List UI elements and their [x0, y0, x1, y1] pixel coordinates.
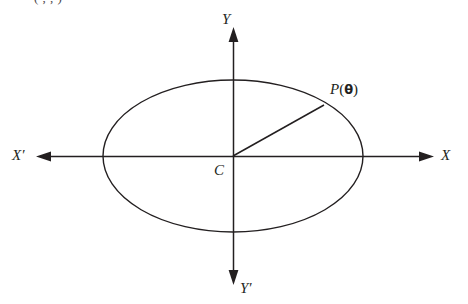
ellipse-diagram-figure: ( , , ) X) --> X′ X Y Y′ C: [0, 0, 468, 304]
axis-label-y-negative: Y′: [240, 281, 252, 296]
diagram-canvas: X) -->: [0, 0, 468, 304]
axis-label-y-positive: Y: [222, 12, 230, 27]
x-axis: [36, 152, 434, 162]
x-axis-negative-arrowhead: [36, 152, 51, 162]
axis-label-x-negative: X′: [12, 148, 24, 163]
axis-label-x-positive: X: [441, 148, 450, 163]
x-axis-positive-arrowhead: [419, 152, 434, 162]
centre-point-label: C: [214, 163, 224, 178]
y-axis-positive-arrowhead: [229, 27, 239, 42]
point-label-variable: P: [330, 81, 339, 97]
radius-vector-line: [233, 105, 324, 156]
point-p-theta-label: P(θ): [330, 82, 358, 97]
point-label-close-paren: ): [353, 81, 358, 97]
point-label-theta: θ: [344, 82, 353, 97]
y-axis-negative-arrowhead: [229, 270, 239, 285]
